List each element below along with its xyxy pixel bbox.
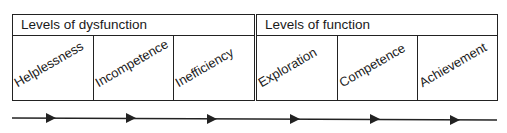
arrowhead-icon	[370, 114, 380, 124]
arrowhead-icon	[207, 114, 217, 124]
arrowhead-icon	[46, 113, 56, 123]
progression-arrow	[0, 0, 507, 133]
arrowhead-icon	[290, 114, 300, 124]
arrowhead-icon	[126, 113, 136, 123]
arrowhead-icon	[450, 115, 460, 125]
